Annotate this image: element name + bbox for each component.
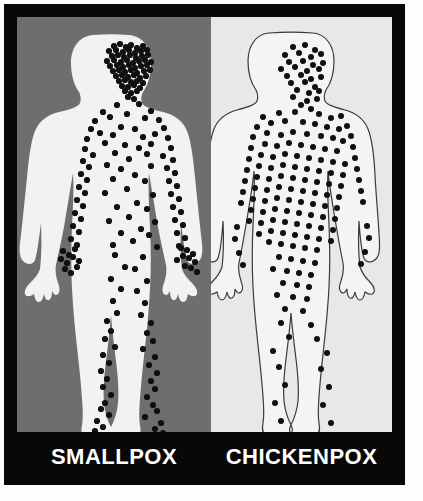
smallpox-figure — [17, 17, 211, 432]
lesion-dot — [352, 155, 358, 161]
lesion-dot — [334, 205, 340, 211]
lesion-dot — [132, 172, 138, 178]
lesion-dot — [312, 121, 318, 127]
lesion-dot — [294, 221, 300, 227]
lesion-dot — [278, 418, 284, 424]
lesion-dot — [122, 88, 128, 94]
lesion-dot — [268, 120, 274, 126]
lesion-dot — [160, 153, 166, 159]
lesion-dot — [104, 162, 110, 168]
lesion-dot — [100, 109, 106, 115]
lesion-dot — [246, 218, 252, 224]
lesion-dot — [72, 246, 78, 252]
panel-chickenpox — [211, 17, 392, 432]
lesion-dot — [262, 141, 268, 147]
lesion-dot — [246, 156, 252, 162]
lesion-dot — [280, 230, 286, 236]
lesion-dot — [270, 154, 276, 160]
lesion-dot — [146, 232, 152, 238]
lesion-dot — [62, 266, 68, 272]
lesion-dot — [334, 148, 340, 154]
lesion-dot — [250, 196, 256, 202]
lesion-dot — [98, 406, 104, 412]
lesion-dot — [142, 178, 148, 184]
lesion-dot — [112, 150, 118, 156]
lesion-dot — [122, 264, 128, 270]
lesion-dot — [106, 412, 112, 418]
lesion-dot — [308, 272, 314, 278]
lesion-dot — [330, 227, 336, 233]
lesion-dot — [258, 220, 264, 226]
lesion-dot — [168, 145, 174, 151]
lesion-dot — [240, 262, 246, 268]
lesion-dot — [250, 134, 256, 140]
lesion-dot — [298, 102, 304, 108]
lesion-dot — [142, 414, 148, 420]
lesion-dot — [344, 123, 350, 129]
lesion-dot — [107, 114, 113, 120]
lesion-dot — [186, 255, 192, 261]
lesion-dot — [348, 133, 354, 139]
lesion-dot — [102, 190, 108, 196]
lesion-dot — [140, 134, 146, 140]
lesion-dot — [290, 243, 296, 249]
lesion-dot — [328, 238, 334, 244]
lesion-dot — [328, 170, 334, 176]
lesion-dot — [302, 177, 308, 183]
lesion-dot — [238, 200, 244, 206]
lesion-dot — [274, 292, 280, 298]
lesion-dot — [148, 320, 154, 326]
lesion-dot — [256, 231, 262, 237]
lesion-dot — [174, 183, 180, 189]
lesion-dot — [306, 155, 312, 161]
lesion-dot — [104, 318, 110, 324]
lesion-dot — [170, 157, 176, 163]
lesion-dot — [292, 232, 298, 238]
lesion-dot — [300, 58, 306, 64]
lesion-dot — [156, 117, 162, 123]
lesion-dot — [330, 159, 336, 165]
lesion-dot — [308, 54, 314, 60]
lesion-dot — [110, 298, 116, 304]
lesion-dot — [360, 199, 366, 205]
lesion-dot — [308, 106, 314, 112]
lesion-dot — [80, 158, 86, 164]
lesion-dot — [278, 241, 284, 247]
lesion-dot — [192, 259, 198, 265]
lesion-dot — [234, 224, 240, 230]
lesion-dot — [82, 146, 88, 152]
lesion-dot — [296, 210, 302, 216]
lesion-dot — [286, 59, 292, 65]
lesion-dot — [110, 132, 116, 138]
lesion-dot — [115, 52, 121, 58]
lesion-dot — [322, 146, 328, 152]
lesion-dot — [278, 132, 284, 138]
lesion-dot — [170, 204, 176, 210]
lesion-dot — [316, 168, 322, 174]
lesion-dot — [125, 94, 131, 100]
lesion-dot — [288, 186, 294, 192]
lesion-dot — [340, 172, 346, 178]
lesion-dot — [86, 164, 92, 170]
lesion-dot — [164, 165, 170, 171]
lesion-dot — [282, 118, 288, 124]
lesion-dot — [136, 101, 142, 107]
lesion-dot — [152, 131, 158, 137]
lesion-dot — [304, 131, 310, 137]
label-bar: SMALLPOX CHICKENPOX — [17, 432, 392, 482]
lesion-dot — [148, 141, 154, 147]
lesion-dot — [100, 352, 106, 358]
lesion-dot — [236, 250, 242, 256]
lesion-dot — [342, 161, 348, 167]
lesion-dot — [118, 166, 124, 172]
lesion-dot — [144, 278, 150, 284]
lesion-dot — [108, 276, 114, 282]
lesion-dot — [118, 230, 124, 236]
lesion-dot — [290, 44, 296, 50]
lesion-dot — [94, 418, 100, 424]
lesion-dot — [118, 124, 124, 130]
panel-smallpox — [17, 17, 211, 432]
lesion-dot — [248, 145, 254, 151]
chickenpox-body-svg — [211, 17, 392, 432]
illustration-root: SMALLPOX CHICKENPOX — [0, 0, 423, 501]
